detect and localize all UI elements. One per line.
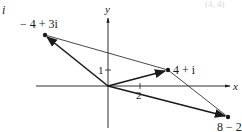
point-4plusi: [166, 68, 170, 72]
x-axis-label: x: [232, 80, 238, 92]
point-neg4plus3i: [43, 33, 47, 37]
vector-to-4plusi: [108, 71, 165, 86]
point-label-4plusi: 4 + i: [173, 63, 196, 77]
complex-plane-diagram: i (4, 4) y x 1 2 − 4 + 3i 4 + i 8 − 2: [0, 0, 242, 132]
corner-label: i: [2, 3, 5, 17]
point-label-neg4plus3i: − 4 + 3i: [20, 17, 59, 31]
faint-top-label: (4, 4): [205, 0, 225, 9]
point-8minus2i: [226, 115, 230, 119]
y-tick-label: 1: [98, 64, 104, 76]
y-axis-label: y: [104, 3, 110, 15]
x-tick-label: 2: [136, 89, 142, 101]
point-label-8minus2i: 8 − 2: [217, 120, 242, 132]
segment-4plusi-to-8minus2i: [168, 70, 228, 117]
segment-neg4plus3i-to-4plusi: [45, 35, 168, 70]
